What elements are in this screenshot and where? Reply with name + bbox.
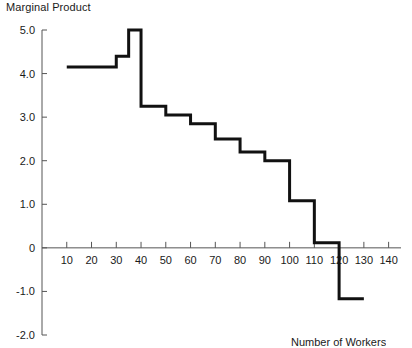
svg-text:90: 90 — [259, 254, 271, 266]
svg-text:130: 130 — [355, 254, 373, 266]
x-axis-label: Number of Workers — [291, 336, 386, 348]
svg-text:5.0: 5.0 — [20, 24, 35, 36]
svg-text:140: 140 — [379, 254, 397, 266]
svg-text:40: 40 — [135, 254, 147, 266]
svg-text:-2.0: -2.0 — [16, 329, 35, 341]
marginal-product-step-chart: 5.04.03.02.01.00-1.0-2.01020304050607080… — [0, 0, 412, 348]
svg-text:2.0: 2.0 — [20, 155, 35, 167]
svg-text:30: 30 — [110, 254, 122, 266]
svg-text:80: 80 — [234, 254, 246, 266]
chart-axes — [42, 30, 401, 335]
svg-text:1.0: 1.0 — [20, 198, 35, 210]
svg-text:20: 20 — [85, 254, 97, 266]
svg-text:10: 10 — [61, 254, 73, 266]
chart-container: Marginal Product 5.04.03.02.01.00-1.0-2.… — [0, 0, 412, 348]
svg-text:-1.0: -1.0 — [16, 285, 35, 297]
svg-text:110: 110 — [306, 254, 324, 266]
svg-text:0: 0 — [29, 242, 35, 254]
svg-text:50: 50 — [160, 254, 172, 266]
svg-text:3.0: 3.0 — [20, 111, 35, 123]
svg-text:70: 70 — [209, 254, 221, 266]
svg-text:4.0: 4.0 — [20, 68, 35, 80]
svg-text:60: 60 — [184, 254, 196, 266]
svg-text:100: 100 — [280, 254, 298, 266]
tick-marks — [42, 30, 389, 335]
